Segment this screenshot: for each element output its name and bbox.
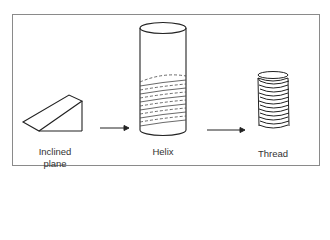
thread-drawing (258, 72, 289, 129)
inclined-plane-label: Inclined plane (30, 146, 80, 170)
thread-label: Thread (253, 148, 293, 160)
label-line: plane (30, 158, 80, 170)
arrow-right-icon (207, 128, 245, 133)
arrow-right-icon (100, 126, 129, 131)
inclined-plane-drawing (23, 95, 82, 131)
helix-label: Helix (143, 146, 183, 158)
label-line: Inclined (30, 146, 80, 158)
helix-coils (140, 75, 186, 126)
